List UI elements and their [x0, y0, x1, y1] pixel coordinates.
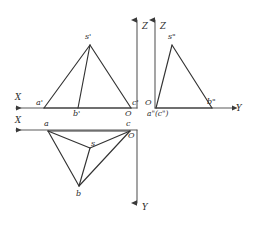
top-edge-sc [90, 131, 130, 148]
label-vertex-c-front: c' [132, 99, 139, 107]
front-view-shape [44, 45, 131, 108]
front-edge-sb [78, 45, 90, 108]
label-axis-x-front: X [15, 93, 21, 102]
label-axis-z-side: Z [160, 22, 166, 31]
top-view-shape [48, 131, 130, 186]
label-vertex-s-top: s [91, 140, 95, 148]
side-view-shape [156, 45, 212, 108]
projection-drawing: X X Z Z Y Y s' a' b' c' O s" O a"(c") b"… [0, 0, 254, 225]
label-vertex-b-front: b' [73, 110, 80, 118]
label-axis-x-top: X [15, 116, 21, 125]
label-axis-y-side: Y [236, 104, 242, 113]
top-edge-ab [48, 131, 79, 186]
side-edge-sa [156, 45, 172, 108]
front-edge-sc [90, 45, 131, 108]
label-vertex-c-top: c [126, 120, 130, 128]
label-vertex-s-front: s' [85, 33, 91, 41]
label-vertex-b-side: b" [207, 98, 216, 106]
label-axis-z-front: Z [142, 22, 148, 31]
label-vertex-a-top: a [44, 120, 49, 128]
label-vertex-s-side: s" [168, 33, 176, 41]
label-origin-top: O [128, 132, 135, 140]
label-vertex-a-front: a' [36, 99, 43, 107]
label-origin-side: O [145, 99, 152, 107]
label-vertex-ac-side: a"(c") [147, 110, 168, 118]
front-edge-sa [44, 45, 90, 108]
side-edge-sb [172, 45, 212, 108]
top-edge-sa [48, 131, 90, 148]
label-origin-front: O [125, 110, 132, 118]
label-axis-y-top: Y [142, 203, 148, 212]
label-vertex-b-top: b [76, 190, 81, 198]
